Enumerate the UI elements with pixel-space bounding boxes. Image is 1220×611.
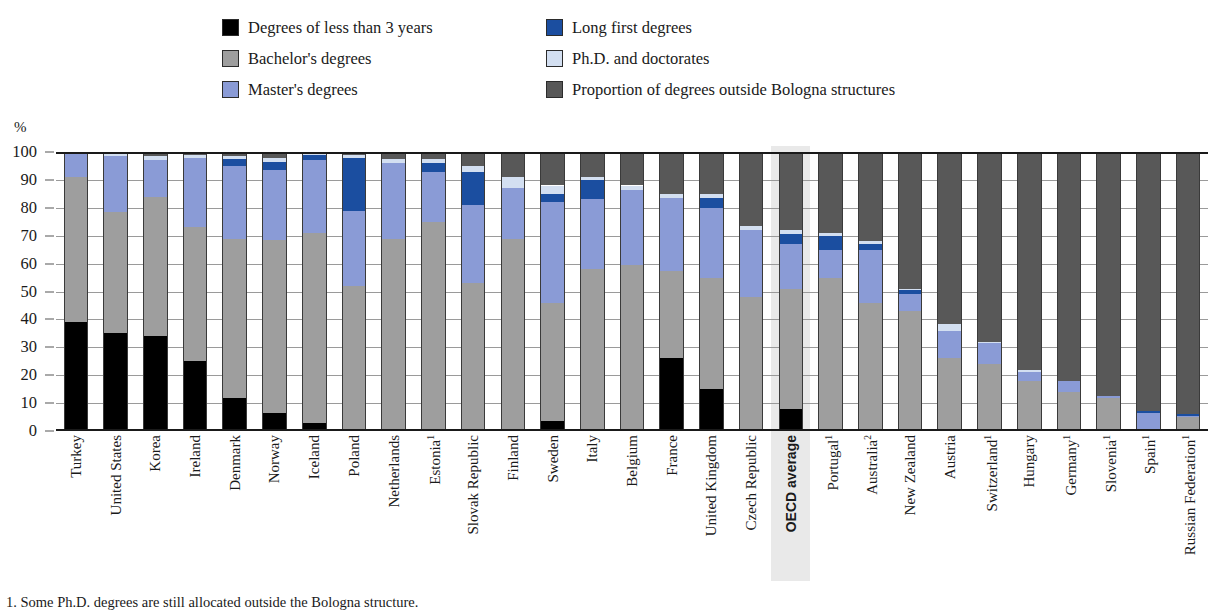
bar-segment-master[interactable] bbox=[818, 250, 843, 278]
bar-segment-long_first[interactable] bbox=[1136, 411, 1161, 412]
bar-segment-bachelor[interactable] bbox=[779, 289, 804, 409]
bar-column[interactable] bbox=[858, 152, 883, 431]
bar-segment-master[interactable] bbox=[1096, 396, 1121, 397]
bar-segment-outside[interactable] bbox=[937, 152, 962, 324]
bar-column[interactable] bbox=[818, 152, 843, 431]
bar-segment-long_first[interactable] bbox=[818, 236, 843, 250]
bar-segment-master[interactable] bbox=[659, 198, 684, 271]
stacked-bar[interactable] bbox=[1017, 152, 1042, 431]
bar-segment-master[interactable] bbox=[183, 158, 208, 228]
bar-segment-outside[interactable] bbox=[1176, 152, 1201, 414]
bar-segment-phd[interactable] bbox=[421, 159, 446, 163]
bar-segment-bachelor[interactable] bbox=[342, 286, 367, 431]
bar-segment-master[interactable] bbox=[64, 153, 89, 177]
bar-segment-bachelor[interactable] bbox=[620, 265, 645, 431]
bar-segment-bachelor[interactable] bbox=[143, 197, 168, 337]
bar-segment-outside[interactable] bbox=[461, 152, 486, 166]
bar-segment-master[interactable] bbox=[1136, 413, 1161, 431]
bar-segment-phd[interactable] bbox=[540, 186, 565, 194]
bar-column[interactable] bbox=[620, 152, 645, 431]
bar-segment-short[interactable] bbox=[143, 336, 168, 431]
bar-column[interactable] bbox=[1096, 152, 1121, 431]
bar-segment-long_first[interactable] bbox=[222, 159, 247, 166]
bar-segment-outside[interactable] bbox=[1017, 152, 1042, 370]
bar-segment-phd[interactable] bbox=[699, 194, 724, 198]
bar-segment-bachelor[interactable] bbox=[302, 233, 327, 423]
bar-segment-short[interactable] bbox=[103, 333, 128, 431]
bar-segment-phd[interactable] bbox=[143, 156, 168, 160]
bar-column[interactable] bbox=[1057, 152, 1082, 431]
bar-column[interactable] bbox=[1017, 152, 1042, 431]
bar-segment-outside[interactable] bbox=[580, 152, 605, 177]
stacked-bar[interactable] bbox=[143, 152, 168, 431]
bar-segment-outside[interactable] bbox=[739, 152, 764, 226]
stacked-bar[interactable] bbox=[64, 152, 89, 431]
bar-segment-bachelor[interactable] bbox=[381, 239, 406, 432]
stacked-bar[interactable] bbox=[222, 152, 247, 431]
bar-segment-master[interactable] bbox=[779, 244, 804, 289]
bar-segment-short[interactable] bbox=[779, 409, 804, 431]
bar-column[interactable] bbox=[1176, 152, 1201, 431]
bar-segment-outside[interactable] bbox=[342, 152, 367, 155]
bar-segment-bachelor[interactable] bbox=[183, 227, 208, 361]
stacked-bar[interactable] bbox=[1057, 152, 1082, 431]
bar-segment-bachelor[interactable] bbox=[858, 303, 883, 431]
bar-segment-master[interactable] bbox=[699, 208, 724, 278]
bar-segment-short[interactable] bbox=[262, 413, 287, 431]
bar-segment-outside[interactable] bbox=[818, 152, 843, 233]
bar-segment-outside[interactable] bbox=[1136, 152, 1161, 411]
bar-segment-outside[interactable] bbox=[262, 152, 287, 158]
bar-column[interactable] bbox=[342, 152, 367, 431]
bar-segment-master[interactable] bbox=[1057, 381, 1082, 392]
bar-segment-bachelor[interactable] bbox=[580, 269, 605, 431]
bar-column[interactable] bbox=[143, 152, 168, 431]
bar-segment-bachelor[interactable] bbox=[461, 283, 486, 431]
bar-segment-outside[interactable] bbox=[183, 152, 208, 155]
stacked-bar[interactable] bbox=[183, 152, 208, 431]
bar-segment-master[interactable] bbox=[977, 343, 1002, 364]
bar-segment-bachelor[interactable] bbox=[1057, 392, 1082, 431]
bar-column[interactable] bbox=[659, 152, 684, 431]
bar-segment-short[interactable] bbox=[540, 421, 565, 431]
stacked-bar[interactable] bbox=[937, 152, 962, 431]
bar-segment-bachelor[interactable] bbox=[739, 297, 764, 431]
bar-segment-master[interactable] bbox=[421, 172, 446, 222]
bar-segment-long_first[interactable] bbox=[461, 172, 486, 205]
bar-segment-master[interactable] bbox=[342, 211, 367, 286]
bar-segment-phd[interactable] bbox=[262, 158, 287, 162]
bar-segment-long_first[interactable] bbox=[898, 290, 923, 294]
bar-segment-phd[interactable] bbox=[1017, 370, 1042, 373]
bar-segment-phd[interactable] bbox=[937, 324, 962, 331]
bar-segment-master[interactable] bbox=[143, 160, 168, 196]
bar-segment-master[interactable] bbox=[739, 230, 764, 297]
bar-column[interactable] bbox=[501, 152, 526, 431]
bar-column[interactable] bbox=[461, 152, 486, 431]
bar-segment-bachelor[interactable] bbox=[103, 212, 128, 333]
stacked-bar[interactable] bbox=[1136, 152, 1161, 431]
stacked-bar[interactable] bbox=[540, 152, 565, 431]
bar-segment-master[interactable] bbox=[898, 294, 923, 311]
bar-segment-outside[interactable] bbox=[381, 152, 406, 159]
bar-column[interactable] bbox=[739, 152, 764, 431]
bar-segment-master[interactable] bbox=[1017, 372, 1042, 380]
bar-segment-long_first[interactable] bbox=[342, 158, 367, 211]
bar-segment-outside[interactable] bbox=[858, 152, 883, 241]
bar-segment-outside[interactable] bbox=[501, 152, 526, 177]
bar-segment-master[interactable] bbox=[222, 166, 247, 239]
stacked-bar[interactable] bbox=[461, 152, 486, 431]
bar-column[interactable] bbox=[977, 152, 1002, 431]
bar-segment-outside[interactable] bbox=[620, 152, 645, 185]
bar-segment-phd[interactable] bbox=[580, 177, 605, 180]
bar-segment-phd[interactable] bbox=[302, 153, 327, 154]
bar-segment-master[interactable] bbox=[858, 250, 883, 303]
stacked-bar[interactable] bbox=[818, 152, 843, 431]
bar-column[interactable] bbox=[262, 152, 287, 431]
bar-segment-bachelor[interactable] bbox=[222, 239, 247, 398]
stacked-bar[interactable] bbox=[421, 152, 446, 431]
bar-segment-outside[interactable] bbox=[1057, 152, 1082, 381]
stacked-bar[interactable] bbox=[1176, 152, 1201, 431]
bar-segment-master[interactable] bbox=[302, 160, 327, 233]
stacked-bar[interactable] bbox=[779, 152, 804, 431]
bar-segment-long_first[interactable] bbox=[779, 234, 804, 244]
bar-column[interactable] bbox=[779, 152, 804, 431]
